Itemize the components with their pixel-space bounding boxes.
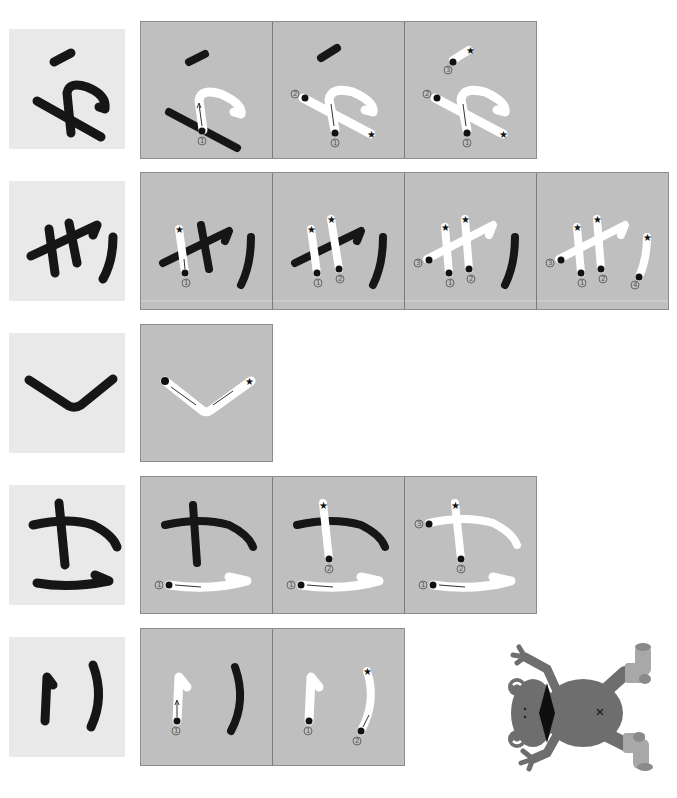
stroke-step-1: 1	[141, 477, 273, 613]
character-box-ki	[9, 181, 125, 301]
frog-illustration	[495, 635, 665, 785]
svg-text:2: 2	[327, 565, 331, 573]
stroke-step-2: ★ 1 2	[273, 629, 404, 765]
stroke-panels-ri: 1 ★ 1 2	[140, 628, 405, 766]
svg-text:★: ★	[451, 500, 460, 511]
svg-text:1: 1	[465, 139, 469, 147]
svg-text:3: 3	[446, 66, 450, 74]
svg-text:1: 1	[316, 279, 320, 287]
character-box-ri	[9, 637, 125, 757]
svg-text:★: ★	[367, 129, 376, 140]
svg-text:4: 4	[633, 281, 638, 289]
stroke-panels-ko: 1 ★ 1 2 ★	[140, 476, 537, 614]
step-number-2: 2	[325, 565, 333, 573]
svg-text:★: ★	[363, 666, 372, 677]
svg-text:★: ★	[593, 214, 602, 225]
svg-text:2: 2	[293, 90, 297, 98]
svg-text:1: 1	[421, 581, 425, 589]
stroke-panels-ki: ★ 1 ★ ★ 1 2	[140, 172, 669, 310]
ku-glyph-icon	[9, 333, 125, 453]
step-number-1: 1	[172, 727, 180, 735]
ko-glyph-icon	[9, 485, 125, 605]
step-number-4: 4	[631, 281, 639, 289]
svg-text:2: 2	[459, 565, 463, 573]
step-number-1: 1	[419, 581, 427, 589]
svg-text:★: ★	[175, 224, 184, 235]
step-number-3: 3	[546, 259, 554, 267]
stroke-step-3: ★ ★ 1 2 3	[405, 22, 536, 158]
step-number-2: 2	[457, 565, 465, 573]
svg-text:1: 1	[448, 279, 452, 287]
svg-text:1: 1	[289, 581, 293, 589]
step-number-1: 1	[304, 727, 312, 735]
svg-text:★: ★	[466, 45, 475, 56]
step-number-2: 2	[423, 90, 431, 98]
step-number-3: 3	[415, 520, 423, 528]
stroke-step-2: ★ ★ 1 2	[273, 173, 405, 309]
step-number-1: 1	[287, 581, 295, 589]
svg-text:1: 1	[200, 137, 204, 145]
svg-text:1: 1	[333, 139, 337, 147]
stroke-panels-ku: ★	[140, 324, 273, 462]
step-number-1: 1	[182, 279, 190, 287]
svg-text:1: 1	[306, 727, 310, 735]
character-box-ka	[9, 29, 125, 149]
svg-text:3: 3	[548, 259, 552, 267]
step-number-1: 1	[155, 581, 163, 589]
svg-text:★: ★	[245, 376, 254, 387]
svg-text:2: 2	[601, 275, 605, 283]
svg-text:1: 1	[580, 279, 584, 287]
step-number-2: 2	[336, 275, 344, 283]
step-number-3: 3	[414, 259, 422, 267]
character-box-ko	[9, 485, 125, 605]
stroke-step-3: ★ ★ 1 2 3	[405, 173, 537, 309]
step-number-2: 2	[467, 275, 475, 283]
svg-text:★: ★	[499, 129, 508, 140]
ri-glyph-icon	[9, 637, 125, 757]
step-number-1: 1	[331, 139, 339, 147]
svg-text:★: ★	[573, 222, 582, 233]
stroke-step-1: ★	[141, 325, 272, 461]
stroke-step-1: ★ 1	[141, 173, 273, 309]
svg-text:2: 2	[425, 90, 429, 98]
stroke-step-1: 1	[141, 629, 273, 765]
character-box-ku	[9, 333, 125, 453]
svg-text:2: 2	[469, 275, 473, 283]
stroke-step-4: ★ ★ ★ 1 2 3 4	[537, 173, 668, 309]
ka-glyph-icon	[9, 29, 125, 149]
step-number-3: 3	[444, 66, 452, 74]
svg-text:1: 1	[157, 581, 161, 589]
step-number-1: 1	[463, 139, 471, 147]
svg-text:2: 2	[338, 275, 342, 283]
step-number-1: 1	[314, 279, 322, 287]
stroke-panels-ka: 1 ★ 1 2	[140, 21, 537, 159]
frog-icon	[495, 635, 665, 785]
stroke-step-2: ★ 1 2	[273, 477, 405, 613]
svg-text:★: ★	[327, 214, 336, 225]
step-number-1: 1	[446, 279, 454, 287]
svg-text:★: ★	[307, 224, 316, 235]
svg-text:★: ★	[441, 222, 450, 233]
step-number-1: 1	[198, 137, 206, 145]
step-number-2: 2	[353, 737, 361, 745]
step-number-2: 2	[599, 275, 607, 283]
svg-text:★: ★	[461, 214, 470, 225]
svg-text:3: 3	[417, 520, 421, 528]
svg-text:2: 2	[355, 737, 359, 745]
stroke-step-1: 1	[141, 22, 273, 158]
svg-text:1: 1	[174, 727, 178, 735]
svg-text:★: ★	[643, 232, 652, 243]
step-number-1: 1	[578, 279, 586, 287]
svg-text:1: 1	[184, 279, 188, 287]
ki-glyph-icon	[9, 181, 125, 301]
svg-text:3: 3	[416, 259, 420, 267]
stroke-step-3: ★ 1 2 3	[405, 477, 536, 613]
step-number-2: 2	[291, 90, 299, 98]
svg-text:★: ★	[319, 500, 328, 511]
stroke-step-2: ★ 1 2	[273, 22, 405, 158]
